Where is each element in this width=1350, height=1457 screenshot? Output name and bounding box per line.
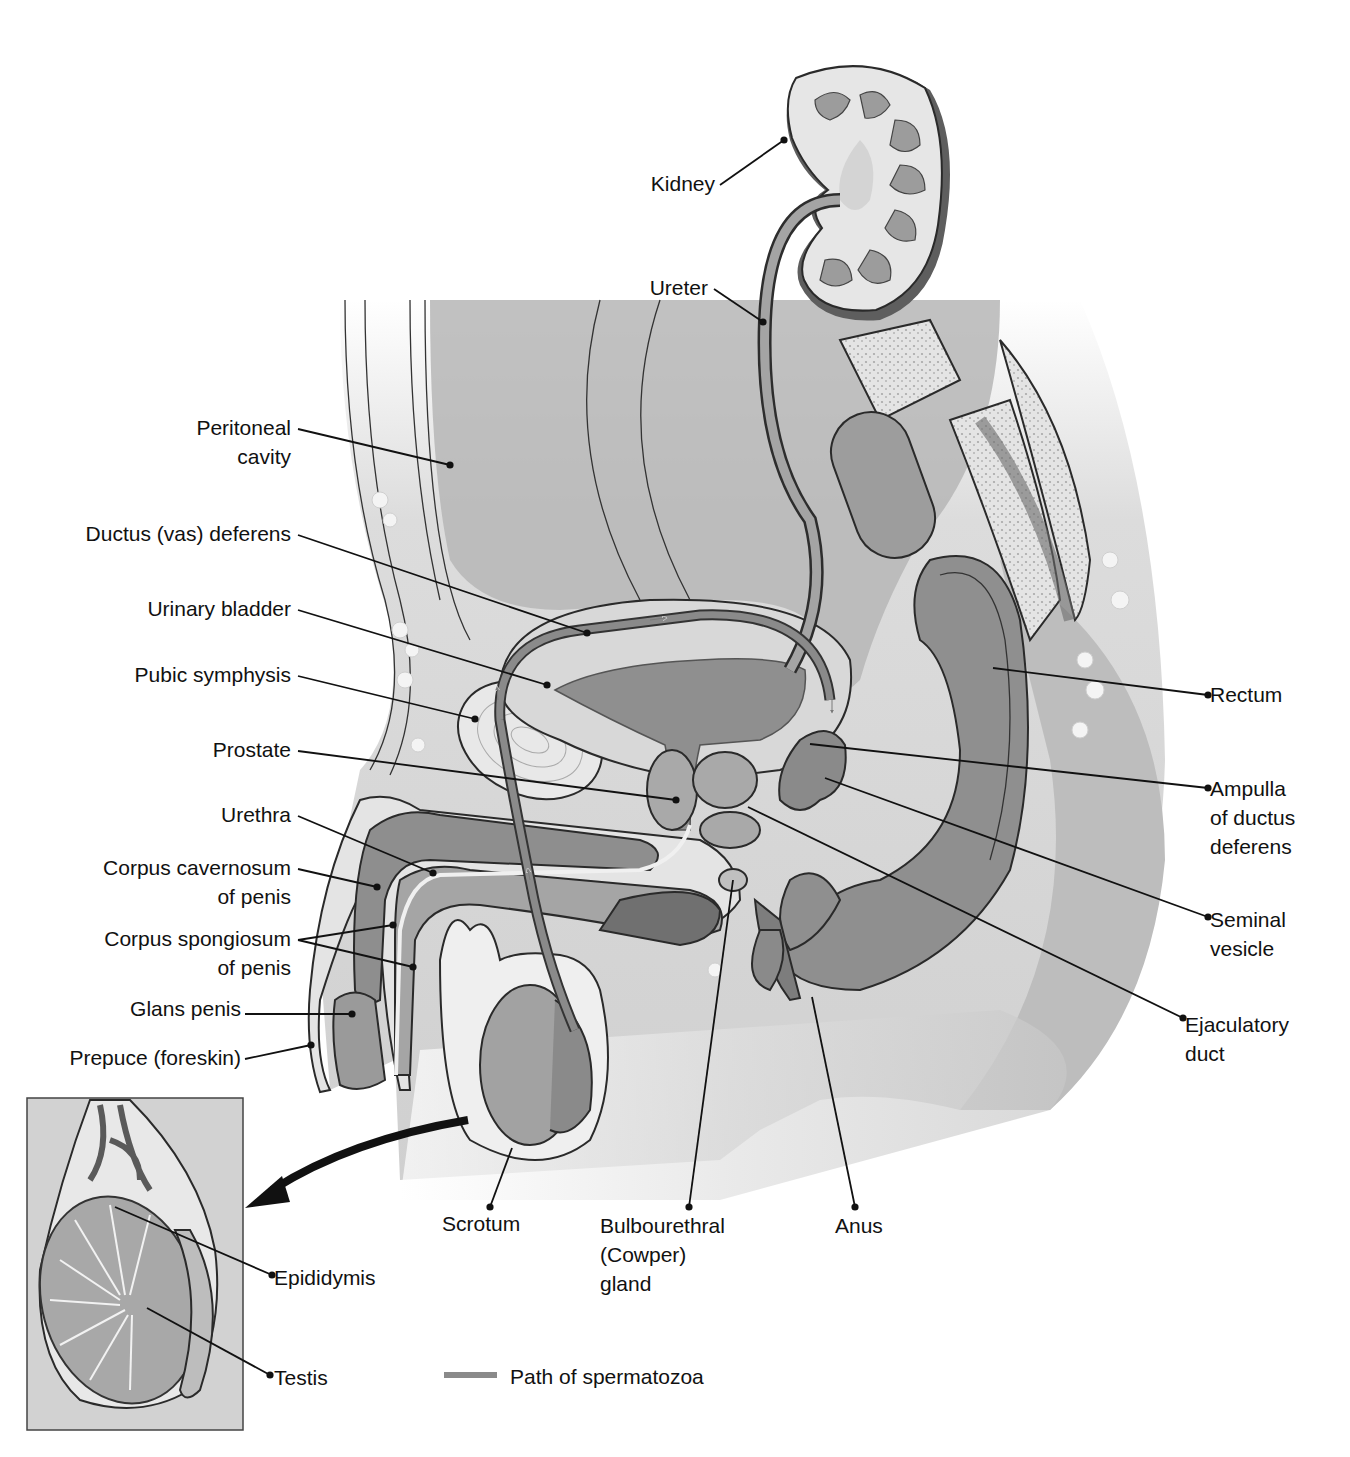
label-prepuce: Prepuce (foreskin) xyxy=(69,1046,241,1069)
label-pubic-symphysis: Pubic symphysis xyxy=(135,663,291,686)
label-rectum: Rectum xyxy=(1210,683,1282,706)
label-seminal-vesicle: Seminalvesicle xyxy=(1210,908,1286,960)
kidney-pointer-dot xyxy=(780,136,787,143)
kidney xyxy=(787,66,950,320)
prepuce-pointer-dot xyxy=(307,1041,314,1048)
ureter-pointer-dot xyxy=(759,318,766,325)
label-corpus-cavernosum: Corpus cavernosumof penis xyxy=(103,856,291,908)
label-urinary-bladder: Urinary bladder xyxy=(147,597,291,620)
urinary-bladder-pointer-dot xyxy=(543,681,550,688)
urethra-pointer-dot xyxy=(429,869,436,876)
prostate-pointer-dot xyxy=(672,796,679,803)
peritoneal-cavity-pointer-dot xyxy=(446,461,453,468)
label-kidney: Kidney xyxy=(651,172,716,195)
kidney-leader xyxy=(720,140,784,185)
label-ureter: Ureter xyxy=(650,276,708,299)
label-prostate: Prostate xyxy=(213,738,291,761)
bulbourethral-gland-pointer-dot xyxy=(685,1203,692,1210)
label-anus: Anus xyxy=(835,1214,883,1237)
label-epididymis: Epididymis xyxy=(274,1266,376,1289)
label-glans-penis: Glans penis xyxy=(130,997,241,1020)
label-ductus-deferens: Ductus (vas) deferens xyxy=(86,522,291,545)
glans-penis-pointer-dot xyxy=(348,1010,355,1017)
scrotum-pointer-dot xyxy=(486,1203,493,1210)
label-scrotum: Scrotum xyxy=(442,1212,520,1235)
legend-label: Path of spermatozoa xyxy=(510,1365,704,1388)
label-bulbourethral-gland: Bulbourethral(Cowper)gland xyxy=(600,1214,725,1295)
corpus-spongiosum-pointer-dot xyxy=(389,921,396,928)
anatomy-diagram: KidneyUreterPeritonealcavityDuctus (vas)… xyxy=(0,0,1350,1457)
anus-pointer-dot xyxy=(851,1203,858,1210)
label-ejaculatory-duct: Ejaculatoryduct xyxy=(1185,1013,1289,1065)
corpus-spongiosum-pointer-dot xyxy=(409,963,416,970)
testis-pointer-dot xyxy=(266,1371,273,1378)
label-corpus-spongiosum: Corpus spongiosumof penis xyxy=(104,927,291,979)
label-testis: Testis xyxy=(274,1366,328,1389)
label-urethra: Urethra xyxy=(221,803,291,826)
ductus-deferens-pointer-dot xyxy=(583,629,590,636)
label-ampulla: Ampullaof ductusdeferens xyxy=(1210,777,1295,858)
corpus-cavernosum-pointer-dot xyxy=(373,883,380,890)
pubic-symphysis-pointer-dot xyxy=(471,715,478,722)
testis-inset[interactable] xyxy=(17,1098,243,1430)
label-peritoneal-cavity: Peritonealcavity xyxy=(196,416,291,468)
prepuce-leader xyxy=(245,1045,311,1059)
arrowhead-icon xyxy=(245,1176,290,1208)
legend: Path of spermatozoa xyxy=(444,1365,704,1388)
